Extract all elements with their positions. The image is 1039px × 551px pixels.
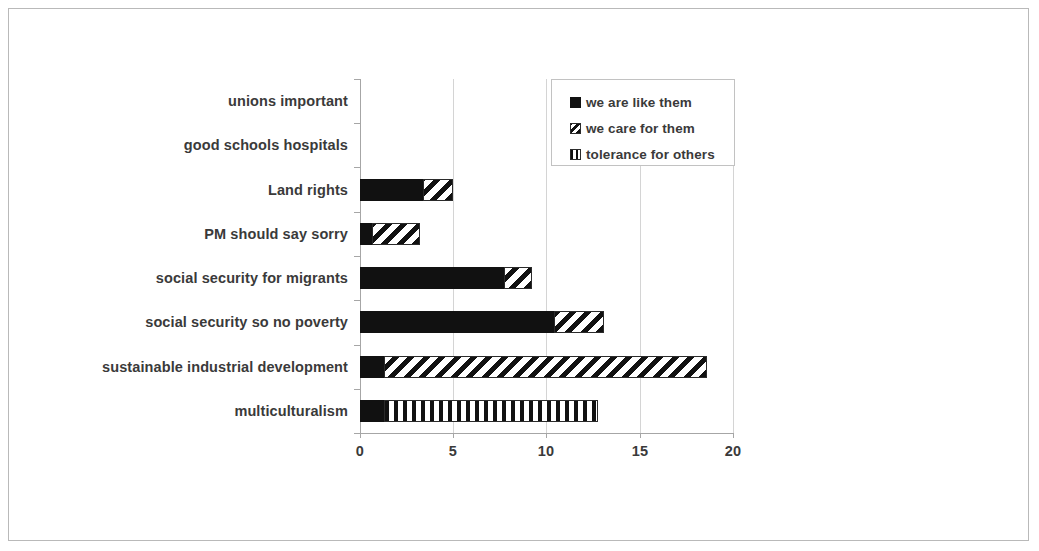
bar-segment-pm-should-say-sorry-we-are-like-them (360, 223, 372, 245)
y-tick-boundary-1 (354, 123, 360, 124)
bar-segment-land-rights-we-are-like-them (360, 179, 423, 201)
x-tick-label-0: 0 (356, 443, 364, 459)
y-tick-boundary-3 (354, 212, 360, 213)
gridline-10 (546, 79, 547, 433)
bar-segment-multiculturalism-tolerance-for-others (384, 400, 598, 422)
legend-label: tolerance for others (586, 147, 715, 162)
category-label-social-security-for-migrants: social security for migrants (156, 270, 348, 286)
x-tick-label-15: 15 (632, 443, 649, 459)
bar-segment-land-rights-we-care-for-them (423, 179, 453, 201)
category-label-pm-should-say-sorry: PM should say sorry (204, 226, 348, 242)
legend-item-we-are-like-them[interactable]: we are like them (570, 89, 734, 115)
solid-black-swatch-icon (570, 97, 581, 108)
y-tick-boundary-0 (354, 79, 360, 80)
x-tick-0 (360, 433, 361, 438)
x-tick-label-10: 10 (538, 443, 555, 459)
category-label-multiculturalism: multiculturalism (234, 403, 348, 419)
bar-segment-social-security-for-migrants-we-are-like-them (360, 267, 504, 289)
y-tick-boundary-7 (354, 389, 360, 390)
y-tick-boundary-2 (354, 167, 360, 168)
y-tick-boundary-4 (354, 256, 360, 257)
x-axis-line (360, 433, 734, 434)
legend-item-tolerance-for-others[interactable]: tolerance for others (570, 141, 734, 167)
y-tick-boundary-8 (354, 433, 360, 434)
x-tick-15 (640, 433, 641, 438)
chart-page: 0 5 10 15 20 unions important good schoo… (0, 0, 1039, 551)
bar-segment-social-security-so-no-poverty-we-care-for-them (554, 311, 604, 333)
diagonal-hatch-swatch-icon (570, 123, 581, 134)
x-tick-label-5: 5 (449, 443, 457, 459)
category-label-land-rights: Land rights (268, 182, 348, 198)
bar-segment-social-security-for-migrants-we-care-for-them (504, 267, 532, 289)
stacked-bar-chart: 0 5 10 15 20 unions important good schoo… (0, 0, 1039, 551)
y-axis-line (360, 79, 361, 434)
x-tick-5 (453, 433, 454, 438)
bar-segment-social-security-so-no-poverty-we-are-like-them (360, 311, 554, 333)
gridline-5 (453, 79, 454, 433)
vertical-stripes-swatch-icon (570, 149, 581, 160)
x-tick-10 (546, 433, 547, 438)
category-label-social-security-so-no-poverty: social security so no poverty (145, 314, 348, 330)
bar-segment-sustainable-industrial-development-we-care-for-them (384, 356, 707, 378)
y-tick-boundary-5 (354, 300, 360, 301)
bar-segment-sustainable-industrial-development-we-are-like-them (360, 356, 384, 378)
y-tick-boundary-6 (354, 345, 360, 346)
x-tick-20 (733, 433, 734, 438)
chart-legend: we are like them we care for them tolera… (551, 79, 735, 166)
category-label-good-schools-hospitals: good schools hospitals (184, 137, 348, 153)
category-label-unions-important: unions important (228, 93, 348, 109)
x-tick-label-20: 20 (725, 443, 742, 459)
legend-item-we-care-for-them[interactable]: we care for them (570, 115, 734, 141)
legend-label: we care for them (586, 121, 695, 136)
bar-segment-pm-should-say-sorry-we-care-for-them (372, 223, 420, 245)
bar-segment-multiculturalism-we-are-like-them (360, 400, 384, 422)
category-label-sustainable-industrial-development: sustainable industrial development (102, 359, 348, 375)
legend-label: we are like them (586, 95, 692, 110)
